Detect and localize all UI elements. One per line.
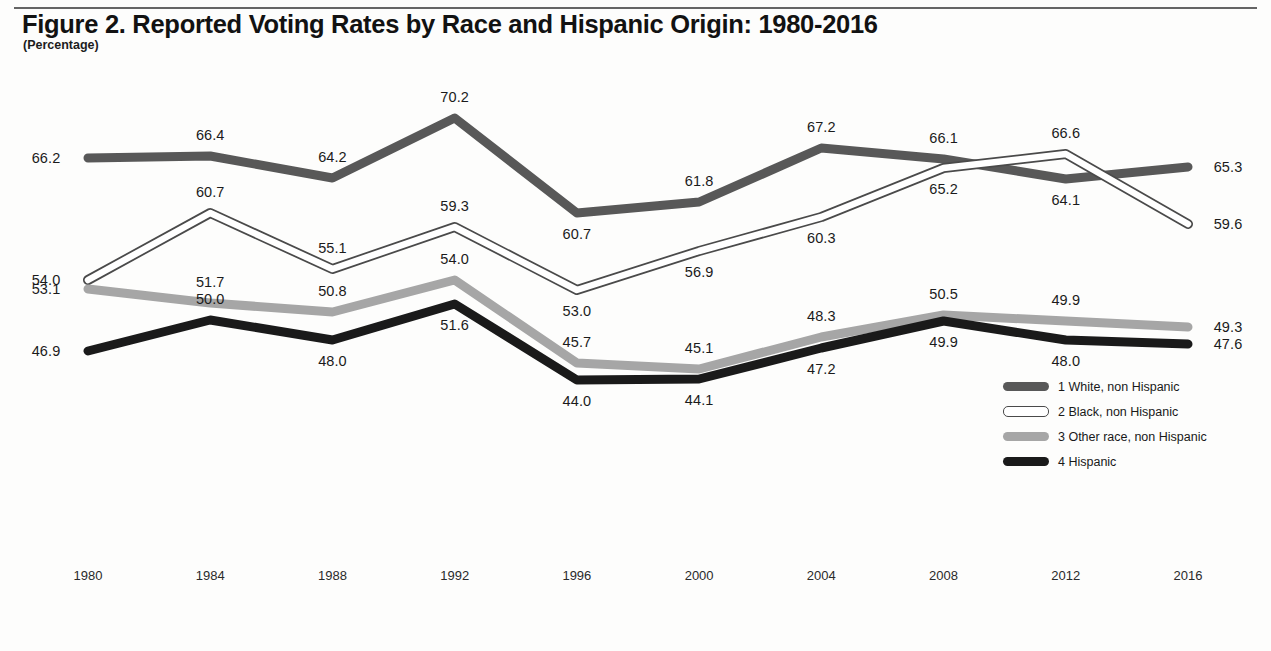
data-point-label: 50.0 [196, 291, 225, 307]
data-point-label: 60.7 [196, 184, 225, 200]
data-point-label: 51.7 [196, 274, 225, 290]
data-point-label: 44.0 [563, 393, 592, 409]
data-point-label: 50.5 [929, 286, 958, 302]
line-swatch-hollow-icon [1003, 406, 1049, 417]
x-tick-2008: 2008 [929, 568, 958, 583]
x-tick-1996: 1996 [562, 568, 591, 583]
x-tick-1988: 1988 [318, 568, 347, 583]
data-point-label: 48.0 [1051, 353, 1080, 369]
legend-item-label: 1 White, non Hispanic [1058, 380, 1180, 394]
x-tick-1992: 1992 [440, 568, 469, 583]
line-swatch-black-icon [1003, 457, 1049, 466]
header-rule [14, 7, 1257, 9]
data-point-label: 44.1 [685, 392, 714, 408]
data-point-label: 56.9 [685, 264, 714, 280]
figure-subtitle: (Percentage) [23, 38, 99, 52]
legend-item-label: 2 Black, non Hispanic [1058, 405, 1178, 419]
data-point-label: 66.6 [1051, 125, 1080, 141]
legend-item-1: 1 White, non Hispanic [1003, 374, 1207, 399]
chart-legend: 1 White, non Hispanic2 Black, non Hispan… [1003, 374, 1207, 474]
data-point-label: 48.3 [807, 308, 836, 324]
data-point-label: 59.3 [440, 198, 469, 214]
data-point-label: 48.0 [318, 353, 347, 369]
line-chart-plot-area [0, 60, 1271, 560]
data-point-label: 66.1 [929, 130, 958, 146]
data-point-label: 65.2 [929, 181, 958, 197]
figure-root: Figure 2. Reported Voting Rates by Race … [0, 0, 1271, 651]
data-point-label: 67.2 [807, 119, 836, 135]
data-point-label: 66.2 [32, 150, 61, 166]
x-tick-2012: 2012 [1051, 568, 1080, 583]
legend-item-4: 4 Hispanic [1003, 449, 1207, 474]
x-tick-2000: 2000 [685, 568, 714, 583]
data-point-label: 45.1 [685, 340, 714, 356]
data-point-label: 49.9 [1051, 292, 1080, 308]
legend-item-label: 4 Hispanic [1058, 455, 1116, 469]
data-point-label: 60.7 [563, 226, 592, 242]
data-point-label: 59.6 [1214, 216, 1243, 232]
line-swatch-dark-gray-icon [1003, 382, 1049, 391]
data-point-label: 53.0 [563, 303, 592, 319]
legend-item-label: 3 Other race, non Hispanic [1058, 430, 1207, 444]
chart-svg [0, 60, 1271, 560]
line-swatch-light-gray-icon [1003, 432, 1049, 441]
data-point-label: 54.0 [440, 251, 469, 267]
data-point-label: 46.9 [32, 343, 61, 359]
x-tick-1980: 1980 [74, 568, 103, 583]
data-point-label: 47.2 [807, 361, 836, 377]
data-point-label: 49.3 [1214, 319, 1243, 335]
data-point-label: 55.1 [318, 240, 347, 256]
data-point-label: 64.2 [318, 149, 347, 165]
data-point-label: 64.1 [1051, 192, 1080, 208]
figure-title: Figure 2. Reported Voting Rates by Race … [22, 10, 878, 39]
legend-item-3: 3 Other race, non Hispanic [1003, 424, 1207, 449]
data-point-label: 47.6 [1214, 336, 1243, 352]
data-point-label: 45.7 [563, 334, 592, 350]
x-tick-1984: 1984 [196, 568, 225, 583]
data-point-label: 49.9 [929, 334, 958, 350]
data-point-label: 50.8 [318, 283, 347, 299]
data-point-label: 70.2 [440, 89, 469, 105]
data-point-label: 66.4 [196, 127, 225, 143]
data-point-label: 65.3 [1214, 159, 1243, 175]
legend-item-2: 2 Black, non Hispanic [1003, 399, 1207, 424]
data-point-label: 60.3 [807, 230, 836, 246]
data-point-label: 53.1 [32, 281, 61, 297]
data-point-label: 61.8 [685, 173, 714, 189]
series-line-0 [88, 118, 1188, 213]
x-tick-2004: 2004 [807, 568, 836, 583]
data-point-label: 51.6 [440, 317, 469, 333]
x-tick-2016: 2016 [1174, 568, 1203, 583]
